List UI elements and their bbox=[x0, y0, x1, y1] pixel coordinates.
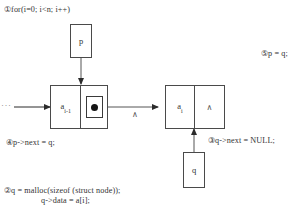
annotation-step-2-line-2: q->data = a[i]; bbox=[41, 196, 90, 206]
middle-null-mark: ∧ bbox=[132, 110, 138, 119]
diagram-canvas bbox=[0, 0, 303, 213]
list-node-left-data-cell: ai-1 bbox=[51, 86, 81, 128]
pointer-variable-label-p: p bbox=[79, 36, 83, 46]
pointer-variable-label-q: q bbox=[192, 165, 196, 175]
list-node-right: ai ∧ bbox=[165, 85, 225, 129]
list-node-right-data-cell: ai bbox=[166, 86, 195, 128]
pointer-dot-icon bbox=[91, 104, 98, 111]
list-node-left-next-cell bbox=[81, 86, 107, 128]
list-node-left: ai-1 bbox=[50, 85, 108, 129]
next-pointer-indicator bbox=[86, 96, 103, 118]
list-node-left-data-label: ai-1 bbox=[61, 101, 71, 113]
pointer-variable-box-p: p bbox=[70, 24, 92, 58]
list-node-right-next-cell: ∧ bbox=[195, 86, 224, 128]
annotation-step-3: ③q->next = NULL; bbox=[208, 136, 275, 146]
annotation-step-1: ①for(i=0; i<n; i++) bbox=[4, 5, 70, 15]
annotation-step-5: ⑤p = q; bbox=[261, 49, 288, 59]
list-continuation-ellipsis: ··· bbox=[1, 100, 12, 110]
pointer-variable-box-q: q bbox=[183, 152, 205, 188]
list-node-right-data-label: ai bbox=[177, 101, 182, 113]
null-pointer-mark-icon: ∧ bbox=[207, 103, 213, 112]
annotation-step-2-line-1: ②q = malloc(sizeof (struct node)); bbox=[4, 186, 120, 196]
annotation-step-4: ④p->next = q; bbox=[6, 138, 55, 148]
